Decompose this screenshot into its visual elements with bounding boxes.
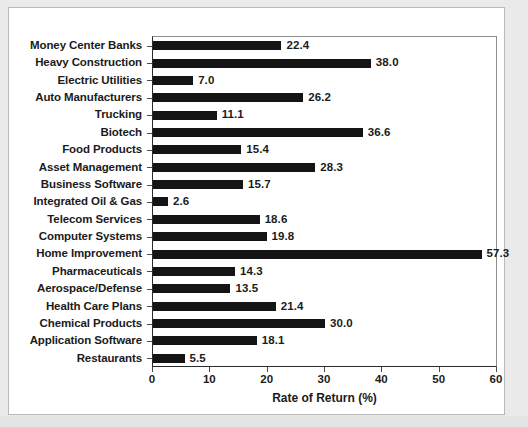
x-axis-tick-label: 60: [490, 373, 503, 385]
y-axis-tick-label: Auto Manufacturers: [35, 89, 142, 106]
bar-value-label: 11.1: [222, 106, 244, 123]
bar-row: 5.5: [153, 350, 497, 367]
bar: [153, 145, 241, 154]
y-axis-tick-mark: [147, 237, 152, 238]
bar: [153, 111, 217, 120]
bar-value-label: 15.7: [248, 176, 271, 193]
bar-row: 30.0: [153, 315, 497, 332]
y-axis-tick-mark: [147, 133, 152, 134]
y-axis-tick-label: Business Software: [41, 176, 142, 193]
y-axis-tick-label: Integrated Oil & Gas: [33, 193, 142, 210]
x-axis-tick-mark: [152, 367, 153, 372]
y-axis-category-labels: Money Center BanksHeavy ConstructionElec…: [19, 37, 148, 367]
bar-value-label: 18.1: [262, 332, 285, 349]
chart-frame: Money Center BanksHeavy ConstructionElec…: [8, 7, 505, 415]
bar-value-label: 30.0: [330, 315, 353, 332]
bar: [153, 180, 243, 189]
y-axis-tick-mark: [147, 358, 152, 359]
bar-value-label: 28.3: [320, 159, 343, 176]
x-axis-tick-mark: [209, 367, 210, 372]
bar-row: 38.0: [153, 54, 497, 71]
y-axis-tick-label: Pharmaceuticals: [52, 263, 142, 280]
y-axis-tick-label: Biotech: [101, 124, 142, 141]
y-axis-tick-label: Telecom Services: [47, 211, 142, 228]
y-axis-tick-mark: [147, 63, 152, 64]
bar: [153, 76, 193, 85]
x-axis-tick-label: 20: [260, 373, 273, 385]
x-axis-tick-mark: [496, 367, 497, 372]
bar-value-label: 13.5: [235, 280, 258, 297]
x-axis-tick-label: 40: [375, 373, 388, 385]
y-axis-tick-label: Trucking: [95, 106, 142, 123]
x-axis-tick-mark: [439, 367, 440, 372]
y-axis-tick-mark: [147, 150, 152, 151]
x-axis-tick-label: 50: [432, 373, 445, 385]
y-axis-tick-label: Restaurants: [77, 350, 142, 367]
bar: [153, 232, 267, 241]
y-axis-tick-mark: [147, 306, 152, 307]
y-axis-tick-label: Health Care Plans: [46, 298, 142, 315]
bar-value-label: 18.6: [265, 211, 288, 228]
bar-row: 15.4: [153, 141, 497, 158]
bar-value-label: 22.4: [286, 37, 309, 54]
x-axis-tick-label: 0: [149, 373, 155, 385]
bar-value-label: 15.4: [246, 141, 269, 158]
y-axis-tick-label: Food Products: [62, 141, 142, 158]
x-axis-title: Rate of Return (%): [152, 391, 497, 405]
y-axis-tick-mark: [147, 98, 152, 99]
y-axis-tick-label: Computer Systems: [39, 228, 142, 245]
bar-row: 2.6: [153, 193, 497, 210]
y-axis-tick-mark: [147, 185, 152, 186]
x-axis-tick-label: 10: [203, 373, 216, 385]
bar: [153, 128, 363, 137]
y-axis-tick-label: Home Improvement: [36, 245, 142, 262]
bar-value-label: 19.8: [272, 228, 295, 245]
y-axis-tick-mark: [147, 341, 152, 342]
y-axis-tick-label: Application Software: [30, 332, 142, 349]
bar-value-label: 38.0: [376, 54, 399, 71]
bottom-edge-strip: [0, 416, 528, 427]
bar-value-label: 36.6: [368, 124, 391, 141]
y-axis-tick-label: Electric Utilities: [58, 72, 142, 89]
y-axis-tick-mark: [147, 80, 152, 81]
bar-value-label: 7.0: [198, 72, 214, 89]
bar-row: 21.4: [153, 298, 497, 315]
y-axis-tick-label: Money Center Banks: [30, 37, 142, 54]
bar: [153, 163, 315, 172]
x-axis-tick-mark: [324, 367, 325, 372]
y-axis-tick-mark: [147, 202, 152, 203]
y-axis-tick-mark: [147, 254, 152, 255]
bar-row: 15.7: [153, 176, 497, 193]
bars-layer: 22.438.07.026.211.136.615.428.315.72.618…: [153, 37, 497, 367]
bar: [153, 93, 303, 102]
bar-row: 7.0: [153, 72, 497, 89]
bar-row: 13.5: [153, 280, 497, 297]
y-axis-tick-mark: [147, 219, 152, 220]
y-axis-tick-label: Heavy Construction: [35, 54, 142, 71]
bar: [153, 250, 482, 259]
y-axis-tick-mark: [147, 115, 152, 116]
y-axis-tick-mark: [147, 167, 152, 168]
bar-row: 14.3: [153, 263, 497, 280]
bar-row: 26.2: [153, 89, 497, 106]
bar-row: 18.6: [153, 211, 497, 228]
bar: [153, 336, 257, 345]
bar-row: 57.3: [153, 245, 497, 262]
bar: [153, 215, 260, 224]
y-axis-tick-mark: [147, 46, 152, 47]
bar: [153, 302, 276, 311]
bar-row: 19.8: [153, 228, 497, 245]
y-axis-tick-label: Asset Management: [39, 159, 142, 176]
y-axis-tick-mark: [147, 289, 152, 290]
x-axis-tick-mark: [267, 367, 268, 372]
bar-value-label: 57.3: [487, 245, 510, 262]
bar-row: 22.4: [153, 37, 497, 54]
bar-row: 18.1: [153, 332, 497, 349]
bar: [153, 41, 281, 50]
bar: [153, 267, 235, 276]
bar-value-label: 14.3: [240, 263, 263, 280]
bar-value-label: 2.6: [173, 193, 189, 210]
y-axis-tick-label: Chemical Products: [40, 315, 142, 332]
bar-row: 11.1: [153, 106, 497, 123]
bar-row: 36.6: [153, 124, 497, 141]
